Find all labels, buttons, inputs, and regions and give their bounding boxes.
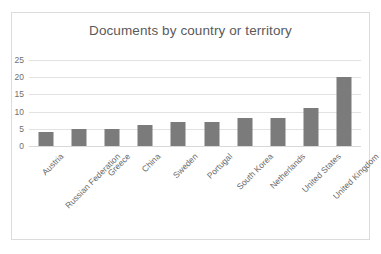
y-tick-label-0: 0	[19, 142, 24, 151]
bar-slot	[295, 60, 328, 146]
y-tick-label-25: 25	[15, 56, 24, 65]
x-label-slot: China	[129, 148, 162, 210]
bar-slot	[95, 60, 128, 146]
bar[interactable]	[237, 118, 252, 146]
y-tick-label-15: 15	[15, 90, 24, 99]
y-tick-label-20: 20	[15, 73, 24, 82]
plot-area: 0510152025	[29, 60, 361, 146]
x-axis-category-labels: AustriaRussian FederationGreeceChinaSwed…	[29, 148, 361, 210]
bar[interactable]	[270, 118, 285, 146]
x-tick-label: United Kingdom	[332, 152, 381, 201]
bar-series	[29, 60, 361, 146]
bar-slot	[261, 60, 294, 146]
bar[interactable]	[71, 129, 86, 146]
bar[interactable]	[304, 108, 319, 146]
x-label-slot: Austria	[29, 148, 62, 210]
x-label-slot: Sweden	[162, 148, 195, 210]
y-tick-label-10: 10	[15, 107, 24, 116]
bar-slot	[129, 60, 162, 146]
bar-slot	[195, 60, 228, 146]
bar-slot	[29, 60, 62, 146]
x-tick-label: China	[141, 152, 163, 174]
bar[interactable]	[104, 129, 119, 146]
x-label-slot: Greece	[95, 148, 128, 210]
x-tick-label: Austria	[40, 152, 65, 177]
bar[interactable]	[171, 122, 186, 146]
bar[interactable]	[38, 132, 53, 146]
x-label-slot: Russian Federation	[62, 148, 95, 210]
x-label-slot: Netherlands	[261, 148, 294, 210]
bar-slot	[328, 60, 361, 146]
x-label-slot: United Kingdom	[328, 148, 361, 210]
bar[interactable]	[138, 125, 153, 146]
chart-title: Documents by country or territory	[12, 23, 369, 38]
x-label-slot: Portugal	[195, 148, 228, 210]
x-label-slot: South Korea	[228, 148, 261, 210]
y-tick-label-5: 5	[19, 125, 24, 134]
bar-slot	[62, 60, 95, 146]
x-label-slot: United States	[295, 148, 328, 210]
bar-slot	[228, 60, 261, 146]
bar-slot	[162, 60, 195, 146]
bar[interactable]	[337, 77, 352, 146]
bar[interactable]	[204, 122, 219, 146]
gridline-0	[29, 146, 361, 147]
